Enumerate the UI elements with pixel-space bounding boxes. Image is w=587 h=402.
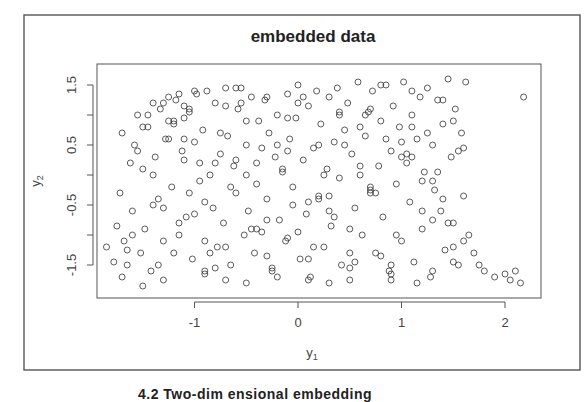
x-tick-label: 0 <box>294 315 301 330</box>
figure-frame <box>24 15 580 370</box>
chart-title: embedded data <box>251 27 376 46</box>
y-tick-label: -0.5 <box>64 194 79 216</box>
y-tick-label: 1.5 <box>64 76 79 94</box>
y-tick-label: 0.5 <box>64 136 79 154</box>
x-tick-label: -1 <box>189 315 201 330</box>
figure-caption: 4.2 Two-dim ensional embedding <box>138 386 372 402</box>
y-tick-label: -1.5 <box>64 254 79 276</box>
x-tick-label: 2 <box>501 315 508 330</box>
x-tick-label: 1 <box>398 315 405 330</box>
